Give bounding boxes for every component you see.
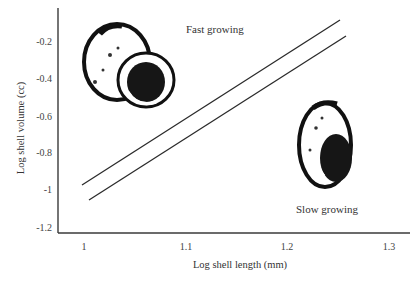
elongated-shell-icon [299,103,352,187]
globose-shell-icon [84,24,174,107]
fast-growing-label: Fast growing [186,23,244,35]
svg-text:-0.8: -0.8 [36,147,52,158]
svg-text:-1.2: -1.2 [36,222,52,233]
svg-text:1.2: 1.2 [281,241,294,252]
svg-text:-1: -1 [44,184,52,195]
svg-text:1: 1 [82,241,87,252]
svg-text:-0.6: -0.6 [36,111,52,122]
y-tick-labels: -0.2 -0.4 -0.6 -0.8 -1 -1.2 [36,36,52,233]
slow-growing-label: Slow growing [296,203,359,215]
x-axis-label: Log shell length (mm) [193,259,288,271]
svg-text:-0.2: -0.2 [36,36,52,47]
y-axis-label: Log shell volume (cc) [15,81,27,174]
svg-text:1.3: 1.3 [383,241,396,252]
chart: -0.2 -0.4 -0.6 -0.8 -1 -1.2 1 1.1 1.2 1.… [0,0,419,285]
svg-text:-0.4: -0.4 [36,73,52,84]
svg-text:1.1: 1.1 [180,241,193,252]
x-tick-labels: 1 1.1 1.2 1.3 [82,241,396,252]
